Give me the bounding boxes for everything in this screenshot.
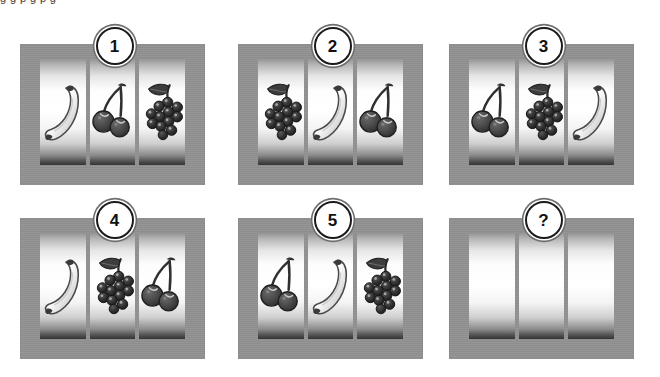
reel-1-cherries xyxy=(258,232,304,339)
slot-machine-1: 1 xyxy=(20,44,205,185)
clipped-header-text: g g p g p g xyxy=(0,0,660,7)
grapes-symbol-icon xyxy=(139,79,185,145)
banana-symbol-icon xyxy=(40,79,86,145)
slot-machine-5: 5 xyxy=(238,218,423,359)
slot-machine-3: 3 xyxy=(449,44,634,185)
reel-3-cherries xyxy=(139,232,185,339)
cherries-symbol-icon xyxy=(357,79,403,145)
banana-symbol-icon xyxy=(308,253,354,319)
grapes-symbol-icon xyxy=(90,253,136,319)
cherries-symbol-icon xyxy=(258,253,304,319)
machine-badge-1: 1 xyxy=(96,27,134,65)
reel-2-grapes xyxy=(90,232,136,339)
reel-window xyxy=(469,232,614,339)
banana-symbol-icon xyxy=(40,253,86,319)
reel-3-grapes xyxy=(357,232,403,339)
reel-window xyxy=(40,232,185,339)
banana-symbol-icon xyxy=(568,79,614,145)
reel-1-cherries xyxy=(469,58,515,165)
grapes-symbol-icon xyxy=(357,253,403,319)
reel-3-blank xyxy=(568,232,614,339)
reel-1-grapes xyxy=(258,58,304,165)
puzzle-canvas: g g p g p g 12345? xyxy=(0,0,660,377)
cherries-symbol-icon xyxy=(469,79,515,145)
grapes-symbol-icon xyxy=(258,79,304,145)
machine-badge-2: 2 xyxy=(314,27,352,65)
machine-badge-3: 3 xyxy=(525,27,563,65)
reel-window xyxy=(40,58,185,165)
slot-machine-2: 2 xyxy=(238,44,423,185)
reel-window xyxy=(258,58,403,165)
machine-badge-?: ? xyxy=(525,201,563,239)
grapes-symbol-icon xyxy=(519,79,565,145)
reel-1-banana xyxy=(40,58,86,165)
reel-3-cherries xyxy=(357,58,403,165)
cherries-symbol-icon xyxy=(139,253,185,319)
reel-2-grapes xyxy=(519,58,565,165)
reel-2-blank xyxy=(519,232,565,339)
banana-symbol-icon xyxy=(308,79,354,145)
reel-1-banana xyxy=(40,232,86,339)
reel-window xyxy=(258,232,403,339)
reel-3-banana xyxy=(568,58,614,165)
reel-2-cherries xyxy=(90,58,136,165)
machine-badge-4: 4 xyxy=(96,201,134,239)
reel-2-banana xyxy=(308,232,354,339)
reel-3-grapes xyxy=(139,58,185,165)
reel-1-blank xyxy=(469,232,515,339)
reel-window xyxy=(469,58,614,165)
reel-2-banana xyxy=(308,58,354,165)
machine-badge-5: 5 xyxy=(314,201,352,239)
slot-machine-6: ? xyxy=(449,218,634,359)
slot-machine-4: 4 xyxy=(20,218,205,359)
cherries-symbol-icon xyxy=(90,79,136,145)
